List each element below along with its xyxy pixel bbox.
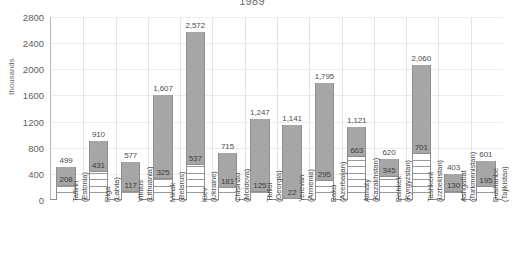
x-axis-country-name: (Armenia)	[307, 142, 316, 202]
x-axis-tick-label-text: Tashkent(Uzbekistan)	[427, 142, 444, 202]
y-axis-tick-label: 2800	[0, 13, 44, 22]
x-axis-tick-label-text: Yerevan(Armenia)	[298, 142, 315, 202]
x-axis-tick-label-text: Minsk(Belarus)	[169, 142, 186, 202]
y-axis-tick-label: 1200	[0, 118, 44, 127]
bar-total-label: 1,607	[139, 85, 186, 93]
bar-total-label: 1,795	[301, 73, 348, 81]
bar-total-label: 2,060	[398, 55, 445, 63]
y-axis-title: thousands	[7, 42, 16, 112]
x-axis-tick-label-text: Tallinn(Estonia)	[72, 142, 89, 202]
x-axis-country-name: (Ukraine)	[210, 142, 219, 202]
y-axis-tick-label: 2400	[0, 39, 44, 48]
x-axis-tick-label-text: Riga(Latvia)	[104, 142, 121, 202]
x-axis-country-name: (Moldova)	[242, 142, 251, 202]
x-axis-city-name: Vilnius	[137, 142, 146, 202]
bar-total-label: 1,121	[333, 117, 380, 125]
x-axis-city-name: Chișinău	[234, 142, 243, 202]
x-axis-tick-label-text: Chișinău(Moldova)	[234, 142, 251, 202]
x-axis-tick-label-text: Bishkek(Kyrgyzstan)	[395, 142, 412, 202]
x-axis-country-name: (Uzbekistan)	[436, 142, 445, 202]
x-axis-tick-label-text: Dushanbe(Tajikistan)	[492, 142, 509, 202]
x-axis-country-name: (Tajikistan)	[500, 142, 509, 202]
x-axis-city-name: Almaty	[363, 142, 372, 202]
y-axis-tick-label: 400	[0, 170, 44, 179]
y-axis-tick-label: 2000	[0, 65, 44, 74]
bar-total-label: 910	[75, 131, 122, 139]
y-axis-tick-label: 800	[0, 144, 44, 153]
x-axis-country-name: (Georgia)	[274, 142, 283, 202]
chart-title: 1989	[0, 0, 504, 7]
x-axis-tick-labels: Tallinn(Estonia)Riga(Latvia)Vilnius(Lith…	[50, 202, 502, 264]
x-axis-tick-label-text: Baku(Azerbaijan)	[330, 142, 347, 202]
x-axis-country-name: (Belarus)	[178, 142, 187, 202]
y-axis-tick-label: 1600	[0, 91, 44, 100]
x-axis-tick-label-text: Almaty(Kazakhstan)	[363, 142, 380, 202]
x-axis-country-name: (Turkmenistan)	[468, 142, 477, 202]
bar-total-label: 2,572	[172, 22, 219, 30]
x-axis-tick-label-text: Kiev(Ukraine)	[201, 142, 218, 202]
x-axis-country-name: (Latvia)	[113, 142, 122, 202]
x-axis-city-name: Ashgabat	[460, 142, 469, 202]
bar-total-label: 1,141	[268, 115, 315, 123]
x-axis-tick-label-text: Ashgabat(Turkmenistan)	[460, 142, 477, 202]
x-axis-country-name: (Kazakhstan)	[371, 142, 380, 202]
x-axis-tick-label: Dushanbe(Tajikistan)	[492, 202, 514, 264]
x-axis-country-name: (Lithuania)	[145, 142, 154, 202]
bar-upper-segment	[413, 65, 430, 154]
x-axis-tick-label-text: Vilnius(Lithuania)	[137, 142, 154, 202]
x-axis-tick-label-text: Tbilisi(Georgia)	[266, 142, 283, 202]
x-axis-country-name: (Azerbaijan)	[339, 142, 348, 202]
x-axis-country-name: (Kyrgyzstan)	[404, 142, 413, 202]
x-axis-country-name: (Estonia)	[81, 142, 90, 202]
y-axis-tick-label: 0	[0, 196, 44, 205]
